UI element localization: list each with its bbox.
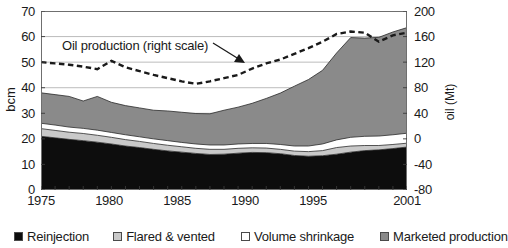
x-axis-tick: 1985 [152,194,202,207]
y-axis-left-title: bcm [4,76,17,124]
legend-item-flared-vented[interactable]: Flared & vented [113,230,215,243]
legend-swatch-icon [113,232,122,241]
y-axis-right-tick: 160 [414,31,444,42]
chart-legend: Reinjection Flared & vented Volume shrin… [0,227,452,245]
legend-label: Volume shrinkage [254,230,354,243]
legend-item-reinjection[interactable]: Reinjection [14,230,89,243]
x-axis-tick: 1980 [84,194,134,207]
y-axis-left-tick: 60 [2,31,35,42]
annotation-arrow-icon [212,41,256,69]
y-axis-right-tick: -40 [414,159,444,170]
legend-label: Flared & vented [126,230,215,243]
y-axis-right-tick: 120 [414,57,444,68]
legend-label: Marketed production [393,230,508,243]
y-axis-left-tick: 20 [2,133,35,144]
y-axis-right-tick: 0 [414,133,444,144]
legend-swatch-icon [14,232,23,241]
y-axis-left-tick: 10 [2,159,35,170]
y-axis-right-tick: 40 [414,108,444,119]
legend-item-volume-shrinkage[interactable]: Volume shrinkage [241,230,354,243]
x-axis-tick: 1975 [16,194,66,207]
y-axis-left-tick: 50 [2,57,35,68]
x-axis-tick: 1990 [220,194,270,207]
x-axis-tick: 2001 [382,194,432,207]
y-axis-right-tick: 200 [414,6,444,17]
legend-item-marketed-production[interactable]: Marketed production [380,230,508,243]
x-axis-tick: 1995 [288,194,338,207]
legend-swatch-icon [380,232,389,241]
legend-swatch-icon [241,232,250,241]
oil-production-annotation-label: Oil production (right scale) [62,39,208,53]
y-axis-left-tick: 70 [2,6,35,17]
y-axis-right-title: oil (Mt) [444,76,456,128]
y-axis-right-tick: 80 [414,82,444,93]
legend-label: Reinjection [27,230,89,243]
